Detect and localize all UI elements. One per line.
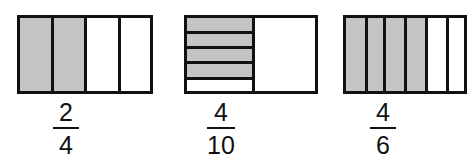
shaded-part bbox=[346, 18, 427, 91]
fraction-label-3: 4 6 bbox=[358, 99, 408, 158]
denominator: 4 bbox=[41, 132, 91, 158]
fraction-bar bbox=[370, 127, 396, 129]
divider-line bbox=[383, 18, 386, 91]
numerator: 2 bbox=[41, 99, 91, 125]
divider-line bbox=[187, 77, 253, 80]
divider-line bbox=[365, 18, 368, 91]
divider-line bbox=[51, 18, 54, 91]
fraction-bar bbox=[207, 127, 235, 129]
fraction-bar bbox=[53, 127, 79, 129]
fraction-label-2: 4 10 bbox=[196, 99, 246, 158]
denominator: 10 bbox=[196, 132, 246, 158]
divider-line bbox=[187, 46, 253, 49]
denominator: 6 bbox=[358, 132, 408, 158]
divider-line bbox=[187, 61, 253, 64]
divider-line bbox=[118, 18, 121, 91]
shaded-part bbox=[20, 18, 53, 91]
numerator: 4 bbox=[358, 99, 408, 125]
divider-line bbox=[425, 18, 428, 91]
divider-line bbox=[252, 18, 255, 91]
divider-line bbox=[446, 18, 449, 91]
divider-line bbox=[404, 18, 407, 91]
fraction-model-4-of-10 bbox=[184, 15, 318, 94]
divider-line bbox=[84, 18, 87, 91]
fraction-model-4-of-6 bbox=[343, 15, 467, 94]
fraction-label-1: 2 4 bbox=[41, 99, 91, 158]
shaded-part bbox=[53, 18, 86, 91]
divider-line bbox=[187, 31, 253, 34]
fraction-model-2-of-4 bbox=[17, 15, 153, 94]
numerator: 4 bbox=[196, 99, 246, 125]
